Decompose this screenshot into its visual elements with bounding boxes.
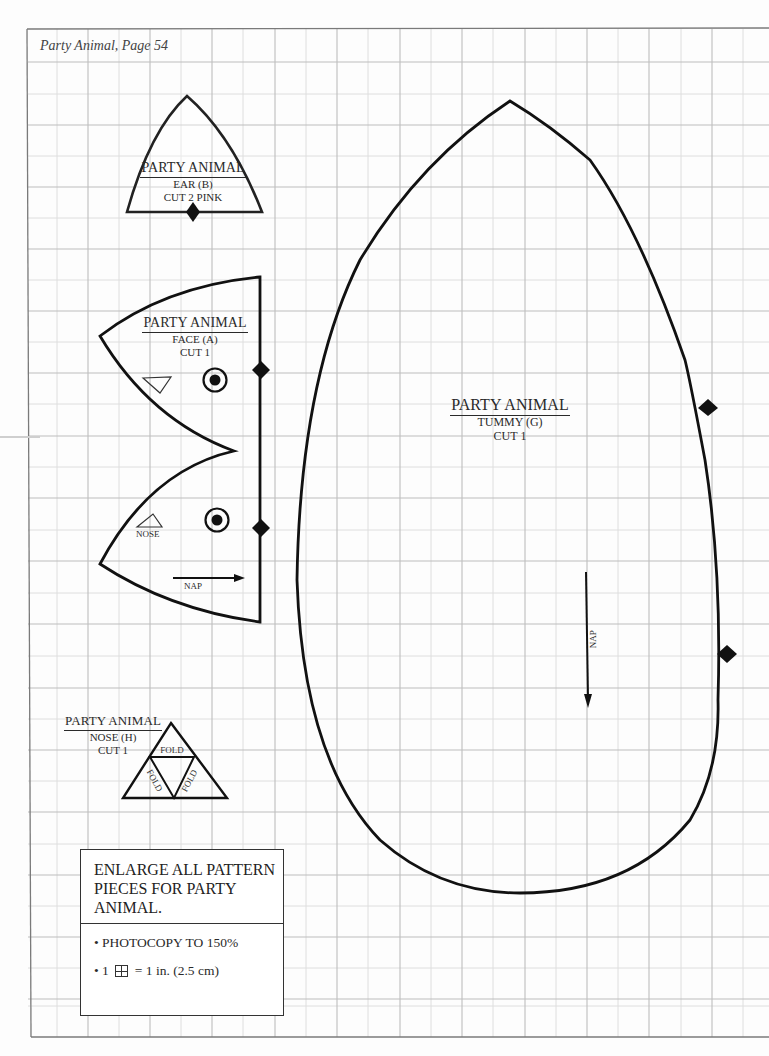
tummy-nap-label: NAP [588, 630, 598, 648]
tummy-name: TUMMY (G) [440, 416, 580, 430]
instructions-heading: ENLARGE ALL PATTERN PIECES FOR PARTY ANI… [81, 850, 283, 924]
scale-suffix: = 1 in. (2.5 cm) [135, 963, 219, 979]
scale-prefix: • 1 [94, 963, 109, 979]
face-notch-diamond-1 [252, 361, 270, 379]
ear-label: PARTY ANIMAL EAR (B) CUT 2 PINK [138, 160, 248, 203]
tummy-cut: CUT 1 [440, 430, 580, 444]
ear-name: EAR (B) [138, 178, 248, 191]
tummy-piece-outline [297, 101, 719, 893]
ear-cut: CUT 2 PINK [138, 191, 248, 204]
tummy-title: PARTY ANIMAL [450, 396, 570, 416]
eye-marker-2 [206, 509, 229, 532]
face-nap-label: NAP [184, 581, 202, 591]
instructions-photocopy: • PHOTOCOPY TO 150% [81, 935, 283, 951]
tummy-notch-diamond-1 [698, 399, 718, 416]
enlarge-instructions-box: ENLARGE ALL PATTERN PIECES FOR PARTY ANI… [80, 849, 284, 1016]
pattern-page: FOLD FOLD FOLD Party Animal, Page 54 PAR… [0, 0, 769, 1056]
instructions-scale: • 1 = 1 in. (2.5 cm) [81, 963, 283, 979]
face-nose-label: NOSE [136, 529, 160, 539]
page-header: Party Animal, Page 54 [40, 38, 168, 54]
nose-fold-label-top: FOLD [160, 745, 184, 755]
nose-title: PARTY ANIMAL [64, 714, 162, 731]
face-label: PARTY ANIMAL FACE (A) CUT 1 [140, 315, 250, 358]
face-name: FACE (A) [140, 333, 250, 346]
nose-label: PARTY ANIMAL NOSE (H) CUT 1 [64, 714, 162, 756]
face-notch-diamond-2 [252, 519, 270, 537]
face-title: PARTY ANIMAL [142, 315, 247, 333]
face-cut: CUT 1 [140, 346, 250, 359]
ear-title: PARTY ANIMAL [140, 160, 245, 178]
grid-square-icon [115, 965, 128, 977]
nose-cut: CUT 1 [64, 744, 162, 757]
eye-marker-1 [204, 369, 227, 392]
tummy-label: PARTY ANIMAL TUMMY (G) CUT 1 [440, 396, 580, 444]
nose-name: NOSE (H) [64, 731, 162, 744]
nose-placement-triangle-1 [143, 377, 171, 393]
